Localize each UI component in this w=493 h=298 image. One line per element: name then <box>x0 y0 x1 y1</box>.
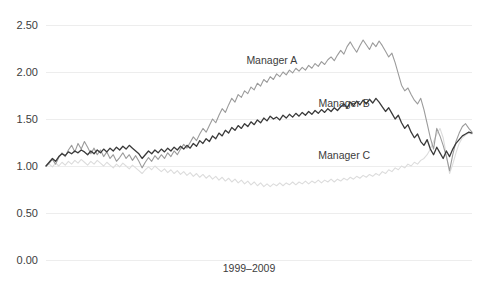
series-label-manager-b: Manager B <box>319 97 370 109</box>
chart-container: 2.502.001.501.000.500.00 Manager AManage… <box>0 0 493 298</box>
y-axis-tick-label: 1.50 <box>17 113 38 125</box>
y-axis-tick-label: 1.00 <box>17 160 38 172</box>
y-axis-tick-label: 2.50 <box>17 19 38 31</box>
y-axis-tick-label: 0.50 <box>17 207 38 219</box>
y-axis-tick-label: 0.00 <box>17 254 38 266</box>
line-chart: 2.502.001.501.000.500.00 Manager AManage… <box>0 0 493 298</box>
y-axis-tick-label: 2.00 <box>17 66 38 78</box>
series-label-manager-a: Manager A <box>246 54 297 66</box>
series-label-manager-c: Manager C <box>318 149 370 161</box>
x-axis-title: 1999–2009 <box>223 262 276 274</box>
